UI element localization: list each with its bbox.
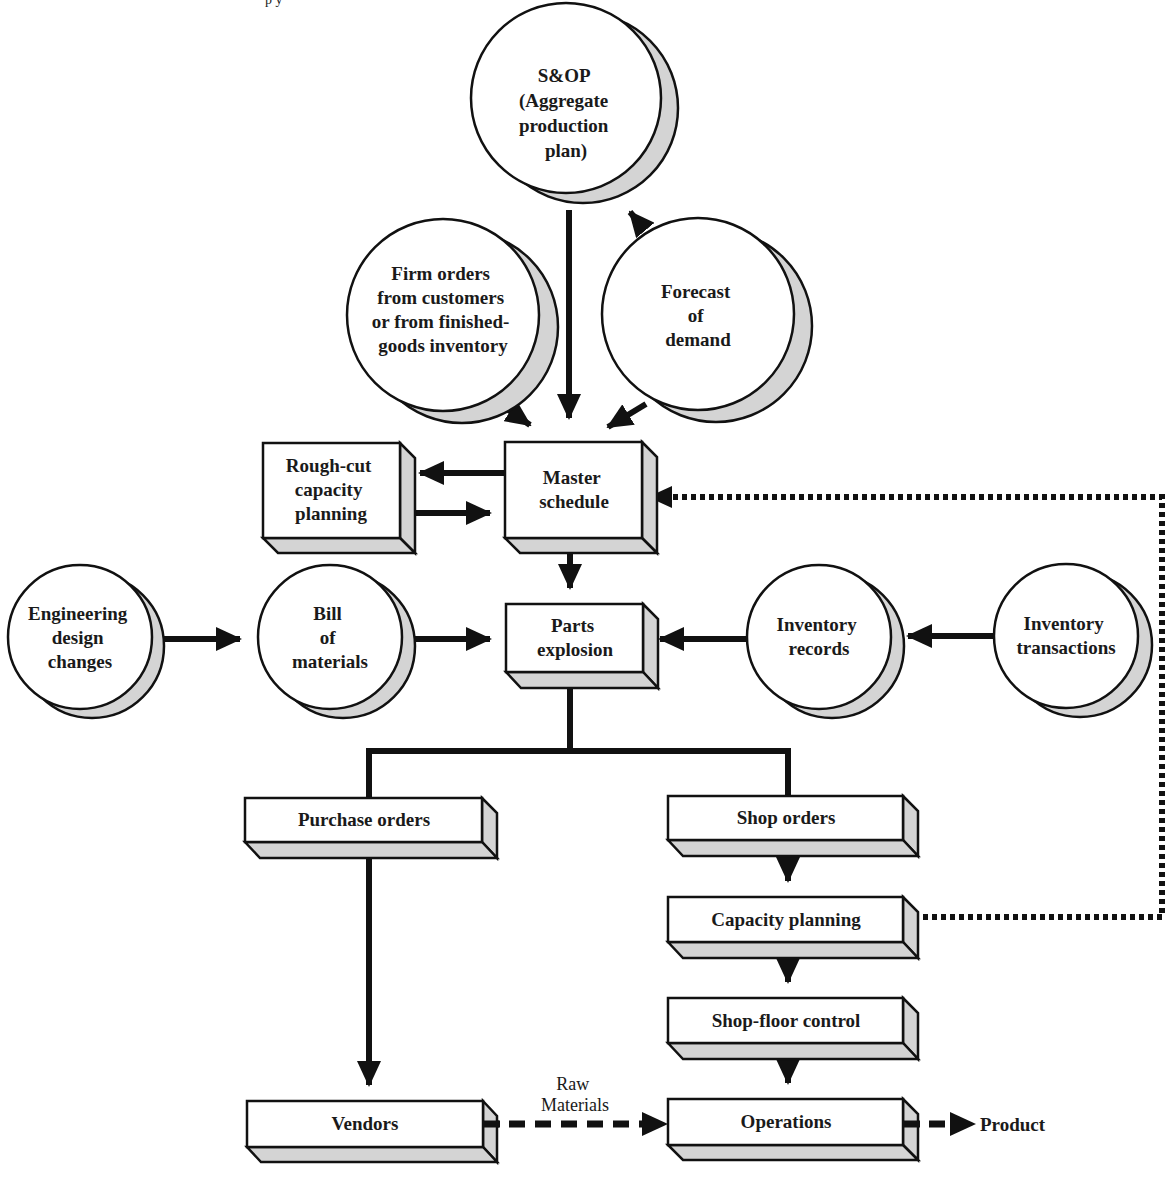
node-inventory-records[interactable]: Inventory records — [747, 565, 904, 718]
node-purchase-orders[interactable]: Purchase orders — [245, 798, 497, 858]
operations-label: Operations — [741, 1111, 832, 1132]
product-label: Product — [980, 1114, 1046, 1135]
cropped-caption-fragment: p y — [265, 0, 283, 7]
node-master-schedule[interactable]: Master schedule — [505, 442, 657, 553]
arrow-forecast-to-master — [608, 404, 646, 427]
node-vendors[interactable]: Vendors — [247, 1101, 497, 1162]
vendors-label: Vendors — [332, 1113, 399, 1134]
node-forecast[interactable]: Forecast of demand — [602, 218, 812, 422]
node-sop[interactable]: S&OP (Aggregate production plan) — [471, 3, 678, 203]
purchase-orders-label: Purchase orders — [298, 809, 430, 830]
arrow-head-product — [950, 1112, 976, 1136]
arrow-forecast-to-sop — [630, 212, 645, 230]
node-inventory-transactions[interactable]: Inventory transactions — [994, 564, 1152, 717]
node-engineering[interactable]: Engineering design changes — [8, 565, 164, 718]
node-shop-orders[interactable]: Shop orders — [668, 796, 918, 856]
line-parts-to-purchase — [369, 688, 570, 798]
node-rough-cut[interactable]: Rough-cut capacity planning — [263, 443, 415, 553]
node-capacity-planning[interactable]: Capacity planning — [668, 897, 918, 958]
line-parts-to-shop — [570, 751, 788, 796]
capacity-planning-label: Capacity planning — [711, 909, 861, 930]
node-bom[interactable]: Bill of materials — [258, 565, 415, 718]
rough-cut-label: Rough-cut capacity planning — [286, 455, 376, 524]
raw-materials-label: Raw Materials — [541, 1074, 609, 1115]
node-shop-floor-control[interactable]: Shop-floor control — [668, 998, 918, 1059]
arrow-head-raw-materials — [642, 1112, 668, 1136]
mrp-diagram: p y — [0, 0, 1172, 1178]
shop-orders-label: Shop orders — [737, 807, 836, 828]
shop-floor-control-label: Shop-floor control — [712, 1010, 861, 1031]
node-operations[interactable]: Operations — [668, 1099, 918, 1160]
node-parts-explosion[interactable]: Parts explosion — [506, 604, 658, 688]
node-firm-orders[interactable]: Firm orders from customers or from finis… — [347, 219, 558, 423]
